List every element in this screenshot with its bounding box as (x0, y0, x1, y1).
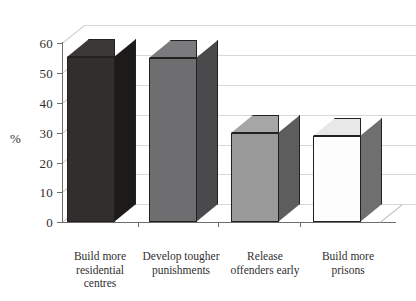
x-axis-line (62, 222, 396, 223)
y-tick-label-20: 20 (20, 156, 53, 172)
x-tick-1 (138, 222, 139, 227)
y-tick-60 (57, 43, 63, 44)
y-tick-label-60: 60 (20, 36, 53, 52)
bar-2-front-face (149, 58, 197, 222)
y-tick-10 (57, 192, 63, 193)
bar-build-more-residential-centres (67, 57, 115, 222)
bar-1-front-face (67, 57, 115, 222)
bar-release-offenders-early (231, 133, 279, 222)
category-label-3: Build more prisons (305, 250, 391, 277)
x-tick-3 (300, 222, 301, 227)
y-tick-label-50: 50 (20, 66, 53, 82)
y-tick-label-10: 10 (20, 185, 53, 201)
bar-2-top-face (149, 40, 197, 58)
bar-4-side-face (360, 118, 382, 222)
bar-3-top-face (231, 115, 279, 133)
gridline-60 (84, 25, 416, 26)
depth-line-60 (62, 25, 84, 43)
bar-3-front-face (231, 133, 279, 222)
bar-4-top-face (313, 118, 361, 136)
x-tick-2 (218, 222, 219, 227)
bar-1-side-face (114, 39, 136, 222)
y-axis-title: % (10, 131, 21, 147)
bar-4-front-face (313, 136, 361, 222)
floor-depth-edge-right (380, 204, 402, 222)
y-tick-30 (57, 133, 63, 134)
y-tick-40 (57, 103, 63, 104)
y-tick-label-0: 0 (20, 215, 53, 231)
y-tick-50 (57, 73, 63, 74)
bar-2-side-face (196, 40, 218, 222)
y-tick-label-40: 40 (20, 96, 53, 112)
bar-3-side-face (278, 115, 300, 222)
y-tick-label-30: 30 (20, 126, 53, 142)
bar-chart: 60 50 40 30 20 10 0 % Build more residen… (0, 0, 416, 301)
bar-1-top-face (67, 39, 115, 57)
category-label-0: Build more residential centres (57, 250, 143, 291)
bar-build-more-prisons (313, 136, 361, 222)
category-label-1: Develop tougher punishments (136, 250, 226, 277)
bar-develop-tougher-punishments (149, 58, 197, 222)
y-tick-0 (57, 222, 63, 223)
y-tick-20 (57, 163, 63, 164)
category-label-2: Release offenders early (222, 250, 308, 277)
